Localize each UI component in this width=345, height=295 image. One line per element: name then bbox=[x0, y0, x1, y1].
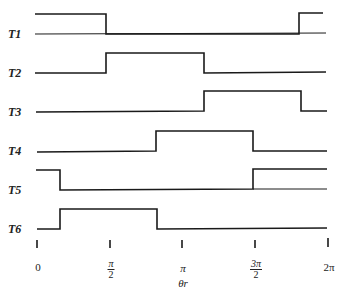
signal-label-t5: T5 bbox=[8, 183, 21, 198]
signal-t4-waveform bbox=[37, 131, 327, 152]
signal-label-t3: T3 bbox=[8, 105, 21, 120]
tick-label-0: 0 bbox=[35, 261, 41, 273]
tick-label-pi-half: π2 bbox=[107, 257, 114, 280]
signal-label-t6: T6 bbox=[8, 222, 21, 237]
frac-den: 2 bbox=[108, 270, 113, 280]
signal-t5-waveform bbox=[36, 169, 327, 190]
signal-t6-waveform bbox=[37, 209, 327, 229]
signal-t2-waveform bbox=[35, 53, 326, 73]
frac-den: 2 bbox=[253, 270, 258, 280]
timing-diagram bbox=[0, 0, 345, 295]
signal-label-t2: T2 bbox=[8, 66, 21, 81]
signal-label-t1: T1 bbox=[8, 27, 21, 42]
x-axis-label: θr bbox=[178, 277, 188, 289]
tick-label-2pi: 2π bbox=[323, 261, 334, 273]
signal-label-t4: T4 bbox=[8, 144, 21, 159]
signal-t3-waveform bbox=[36, 91, 327, 112]
tick-label-3pi-half: 3π2 bbox=[250, 257, 262, 280]
tick-label-pi: π bbox=[180, 262, 186, 274]
signal-t1-waveform bbox=[35, 13, 323, 34]
